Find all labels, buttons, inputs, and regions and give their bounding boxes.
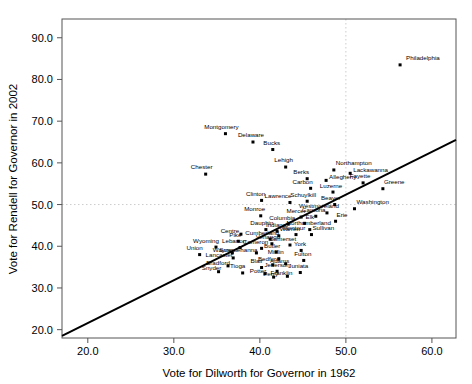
data-point-marker (241, 271, 244, 274)
data-point-label: Wyoming (193, 237, 219, 244)
data-point-marker (308, 228, 311, 231)
data-point-marker (314, 215, 317, 218)
data-point-label: Chester (191, 163, 213, 170)
data-point-group: Monroe (244, 205, 266, 217)
y-tick-label: 80.0 (32, 73, 53, 85)
y-tick-label: 70.0 (32, 115, 53, 127)
data-point-label: Berks (293, 168, 309, 175)
data-point-marker (325, 211, 328, 214)
x-axis-ticks (88, 338, 432, 343)
data-point-marker (251, 141, 254, 144)
data-point-marker (381, 187, 384, 190)
data-point-label: Fayette (350, 172, 371, 179)
data-point-label: Warren (280, 225, 301, 232)
data-point-label: Somerset (270, 235, 297, 242)
data-point-label: Schuylkill (290, 191, 316, 198)
data-point-label: Monroe (244, 205, 266, 212)
y-axis-ticks (57, 38, 62, 330)
x-tick-label: 40.0 (249, 345, 270, 357)
data-point-label: Blair (250, 257, 262, 264)
data-point-marker (332, 168, 335, 171)
data-point-label: Beaver (321, 194, 341, 201)
data-point-group: Perry (263, 270, 279, 279)
data-point-marker (299, 271, 302, 274)
data-point-group: Fulton (294, 250, 312, 262)
data-point-group: Carbon (292, 178, 313, 190)
x-tick-label: 60.0 (421, 345, 442, 357)
data-point-marker (259, 214, 262, 217)
data-point-label: Erie (337, 211, 349, 218)
data-point-marker (288, 201, 291, 204)
x-tick-label: 20.0 (77, 345, 98, 357)
data-point-label: Bucks (263, 139, 280, 146)
data-point-label: Mercer (287, 207, 306, 214)
y-axis-tick-labels: 20.030.040.050.060.070.080.090.0 (32, 32, 53, 336)
data-point-group: Union (187, 244, 204, 256)
data-point-label: Fulton (294, 250, 312, 257)
data-point-marker (310, 233, 313, 236)
data-point-marker (353, 207, 356, 210)
data-point-marker (362, 181, 365, 184)
y-tick-label: 40.0 (32, 240, 53, 252)
data-point-label: Northampton (336, 159, 372, 166)
data-point-label: Montgomery (204, 123, 239, 130)
x-tick-label: 30.0 (163, 345, 184, 357)
y-axis-title: Vote for Rendell for Governor in 2002 (7, 84, 19, 275)
data-point-group: Greene (381, 178, 405, 190)
y-tick-label: 50.0 (32, 199, 53, 211)
data-point-marker (399, 63, 402, 66)
data-point-group: Delaware (238, 131, 265, 144)
data-point-group: Schuylkill (290, 191, 316, 203)
data-point-label: Sullivan (312, 224, 334, 231)
data-point-group: Philadelphia (399, 54, 441, 66)
data-point-label: Juniata (288, 262, 309, 269)
data-point-group: Sullivan (310, 224, 335, 236)
data-point-label: Washington (356, 198, 389, 205)
data-point-group: Washington (353, 198, 390, 210)
data-point-label: Lehigh (274, 156, 293, 163)
data-point-group: Luzerne (320, 182, 343, 194)
data-point-label: Carbon (292, 178, 313, 185)
data-point-group: Erie (334, 211, 348, 223)
data-point-marker (260, 247, 263, 250)
y-tick-label: 90.0 (32, 32, 53, 44)
data-point-marker (204, 173, 207, 176)
y-tick-label: 20.0 (32, 324, 53, 336)
data-point-group: Tioga (230, 262, 246, 274)
data-point-label: Snyder (202, 264, 222, 271)
data-point-label: Lawrence (265, 192, 292, 199)
y-tick-label: 30.0 (32, 282, 53, 294)
data-point-label: Perry (263, 270, 279, 277)
data-point-label: Clinton (246, 190, 266, 197)
data-point-label: Union (187, 244, 204, 251)
data-point-group: Clinton (246, 190, 266, 202)
data-point-group: Snyder (202, 264, 222, 273)
data-point-label: York (294, 240, 307, 247)
data-point-marker (224, 132, 227, 135)
data-point-group: Lawrence (265, 192, 292, 204)
data-point-marker (309, 187, 312, 190)
data-point-label: Lancaster (206, 251, 233, 258)
data-point-marker (334, 220, 337, 223)
data-point-marker (288, 244, 291, 247)
y-tick-label: 60.0 (32, 157, 53, 169)
x-axis-title: Vote for Dilworth for Governor in 1962 (162, 367, 355, 379)
data-point-marker (260, 199, 263, 202)
data-point-marker (198, 253, 201, 256)
data-point-label: Greene (384, 178, 405, 185)
data-point-label: Jefferson (264, 261, 290, 268)
data-point-group: Chester (191, 163, 213, 176)
x-axis-tick-labels: 20.030.040.050.060.0 (77, 345, 443, 357)
data-point-label: Luzerne (320, 182, 343, 189)
data-point-group: Montgomery (204, 123, 239, 136)
data-point-marker (271, 148, 274, 151)
scatter-plot-figure: PhiladelphiaMontgomeryDelawareBucksChest… (0, 0, 472, 384)
data-point-marker (284, 166, 287, 169)
scatter-plot-canvas: PhiladelphiaMontgomeryDelawareBucksChest… (0, 0, 472, 384)
data-point-label: Delaware (238, 131, 265, 138)
data-point-group: Lehigh (274, 156, 293, 169)
x-tick-label: 50.0 (335, 345, 356, 357)
data-point-label: Tioga (230, 262, 246, 269)
data-point-label: Philadelphia (406, 54, 440, 61)
data-point-group: Bucks (263, 139, 280, 152)
